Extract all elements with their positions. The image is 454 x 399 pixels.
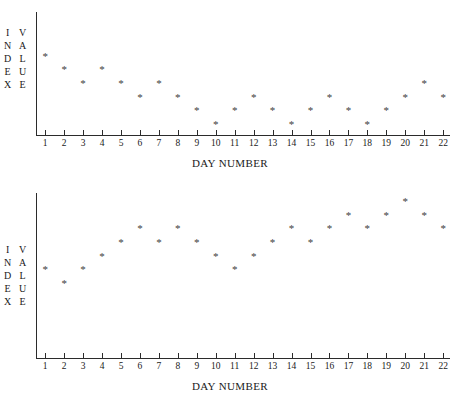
x-axis-tick-label: 22	[431, 361, 454, 372]
data-point-marker: *	[78, 264, 88, 274]
x-axis-line	[36, 358, 450, 359]
data-point-marker: *	[324, 223, 334, 233]
x-axis-tick	[367, 353, 368, 358]
y-axis-title-letter: E	[5, 282, 11, 295]
y-axis-line	[36, 12, 37, 135]
x-axis-tick	[273, 130, 274, 135]
x-axis-tick	[405, 353, 406, 358]
x-axis-tick	[273, 353, 274, 358]
x-axis-tick	[140, 130, 141, 135]
x-axis-tick	[292, 130, 293, 135]
x-axis-tick	[45, 130, 46, 135]
data-point-marker: *	[419, 210, 429, 220]
x-axis-tick	[121, 130, 122, 135]
data-point-marker: *	[230, 105, 240, 115]
x-axis-tick	[329, 353, 330, 358]
data-point-marker: *	[400, 196, 410, 206]
data-point-marker: *	[362, 119, 372, 129]
data-point-marker: *	[192, 237, 202, 247]
data-point-marker: *	[154, 237, 164, 247]
x-axis-tick	[348, 353, 349, 358]
data-point-marker: *	[40, 264, 50, 274]
data-point-marker: *	[135, 223, 145, 233]
data-point-marker: *	[343, 105, 353, 115]
y-axis-title-letter: V	[19, 26, 26, 39]
x-axis-tick	[443, 353, 444, 358]
data-point-marker: *	[362, 223, 372, 233]
x-axis-tick	[102, 353, 103, 358]
data-point-marker: *	[343, 210, 353, 220]
data-point-marker: *	[400, 92, 410, 102]
y-axis-title-letter: E	[20, 295, 26, 308]
x-axis-tick	[443, 130, 444, 135]
data-point-marker: *	[438, 223, 448, 233]
data-point-marker: *	[192, 105, 202, 115]
x-axis-tick	[254, 130, 255, 135]
x-axis-title: DAY NUMBER	[150, 157, 310, 169]
data-point-marker: *	[268, 105, 278, 115]
data-point-marker: *	[268, 237, 278, 247]
data-point-marker: *	[438, 92, 448, 102]
x-axis-tick	[329, 130, 330, 135]
data-point-marker: *	[249, 92, 259, 102]
x-axis-tick	[254, 353, 255, 358]
x-axis-tick	[235, 130, 236, 135]
x-axis-tick	[386, 353, 387, 358]
x-axis-tick	[64, 353, 65, 358]
data-point-marker: *	[419, 78, 429, 88]
y-axis-title-letter: L	[20, 52, 26, 65]
x-axis-tick	[386, 130, 387, 135]
x-axis-tick	[140, 353, 141, 358]
x-axis-tick	[292, 353, 293, 358]
data-point-marker: *	[287, 223, 297, 233]
x-axis-tick	[159, 353, 160, 358]
data-point-marker: *	[78, 78, 88, 88]
data-point-marker: *	[135, 92, 145, 102]
x-axis-tick	[311, 130, 312, 135]
x-axis-title: DAY NUMBER	[150, 380, 310, 392]
x-axis-tick	[197, 353, 198, 358]
y-axis-title-letter: D	[4, 269, 11, 282]
data-point-marker: *	[116, 237, 126, 247]
x-axis-tick	[159, 130, 160, 135]
data-point-marker: *	[154, 78, 164, 88]
data-point-marker: *	[324, 92, 334, 102]
y-axis-title-letter: U	[19, 65, 26, 78]
x-axis-tick	[216, 130, 217, 135]
y-axis-title-letter: N	[4, 39, 11, 52]
x-axis-tick	[83, 130, 84, 135]
x-axis-line	[36, 135, 450, 136]
y-axis-title-value: VALUE	[19, 243, 26, 308]
data-point-marker: *	[306, 105, 316, 115]
data-point-marker: *	[306, 237, 316, 247]
y-axis-title-letter: X	[4, 78, 11, 91]
y-axis-title-index: INDEX	[4, 243, 11, 308]
data-point-marker: *	[381, 210, 391, 220]
y-axis-title-letter: X	[4, 295, 11, 308]
x-axis-tick	[311, 353, 312, 358]
y-axis-title-letter: U	[19, 282, 26, 295]
data-point-marker: *	[230, 264, 240, 274]
data-point-marker: *	[97, 251, 107, 261]
data-point-marker: *	[59, 278, 69, 288]
y-axis-title-letter: E	[20, 78, 26, 91]
data-point-marker: *	[40, 51, 50, 61]
y-axis-title-letter: L	[20, 269, 26, 282]
x-axis-tick	[102, 130, 103, 135]
y-axis-title-letter: A	[19, 256, 26, 269]
data-point-marker: *	[59, 64, 69, 74]
x-axis-tick	[405, 130, 406, 135]
y-axis-title-letter: V	[19, 243, 26, 256]
x-axis-tick	[235, 353, 236, 358]
data-point-marker: *	[211, 251, 221, 261]
x-axis-tick	[348, 130, 349, 135]
data-point-marker: *	[211, 119, 221, 129]
x-axis-tick-label: 22	[431, 138, 454, 149]
x-axis-tick	[121, 353, 122, 358]
data-point-marker: *	[173, 92, 183, 102]
x-axis-tick	[216, 353, 217, 358]
data-point-marker: *	[249, 251, 259, 261]
x-axis-tick	[367, 130, 368, 135]
y-axis-title-letter: I	[6, 26, 9, 39]
y-axis-title-letter: E	[5, 65, 11, 78]
